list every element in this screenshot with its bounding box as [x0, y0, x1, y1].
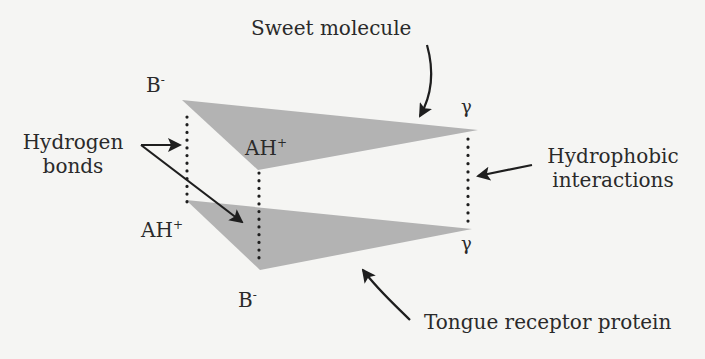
receptor-protein-shape [186, 200, 472, 270]
hydrophobic-label-line2: interactions [538, 168, 688, 192]
sweet-molecule-shape [182, 100, 478, 170]
sweet-molecule-label: Sweet molecule [251, 16, 411, 40]
site-letter: B [238, 288, 253, 312]
site-letter: B [146, 73, 161, 97]
bottom-b-minus-site: B- [238, 288, 257, 312]
tongue-receptor-arrow [363, 270, 410, 320]
hydrophobic-interactions-label: Hydrophobic interactions [538, 144, 688, 192]
site-letter: AH [245, 136, 277, 160]
bottom-gamma-site: γ [461, 232, 472, 256]
sweet-taste-receptor-diagram: Sweet molecule Hydrogen bonds Hydrophobi… [0, 0, 705, 359]
top-ah-plus-site: AH+ [245, 136, 287, 160]
charge: + [173, 218, 183, 232]
hydrogen-bonds-label-line1: Hydrogen [18, 130, 128, 154]
charge: - [253, 288, 257, 302]
bottom-ah-plus-site: AH+ [141, 218, 183, 242]
hydrophobic-arrow [478, 165, 532, 176]
hydrogen-bonds-label-line2: bonds [18, 154, 128, 178]
hydrogen-bonds-label: Hydrogen bonds [18, 130, 128, 178]
top-gamma-site: γ [461, 95, 472, 119]
hydrogen-bonds-arrow-lower [141, 145, 242, 222]
sweet-molecule-arrow [420, 45, 431, 116]
hydrophobic-label-line1: Hydrophobic [538, 144, 688, 168]
charge: - [161, 73, 165, 87]
site-letter: AH [141, 218, 173, 242]
top-b-minus-site: B- [146, 73, 165, 97]
charge: + [277, 136, 287, 150]
tongue-receptor-label: Tongue receptor protein [424, 310, 671, 334]
